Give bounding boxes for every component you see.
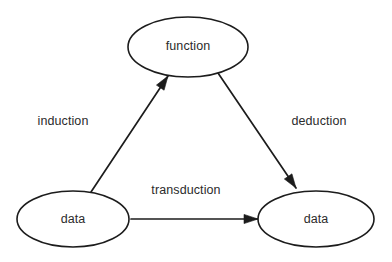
edge-deduction: deduction [218,73,347,188]
diagram-svg: induction deduction transduction functio… [0,0,392,262]
edge-deduction-label: deduction [291,114,346,128]
edge-transduction: transduction [131,183,258,223]
node-data-right[interactable]: data [258,191,374,247]
node-data-left-label: data [61,212,86,226]
node-data-right-label: data [304,212,329,226]
edge-induction: induction [38,76,168,192]
node-data-left[interactable]: data [17,191,129,247]
edge-induction-arrowhead [156,76,168,90]
edge-deduction-line [218,73,296,188]
edge-transduction-label: transduction [151,183,220,197]
edge-induction-label: induction [38,114,89,128]
edge-transduction-arrowhead [244,214,258,223]
edge-deduction-arrowhead [284,174,296,188]
node-function-label: function [166,39,211,53]
diagram-canvas: induction deduction transduction functio… [0,0,392,262]
edge-induction-line [91,76,168,192]
node-function[interactable]: function [128,17,248,77]
